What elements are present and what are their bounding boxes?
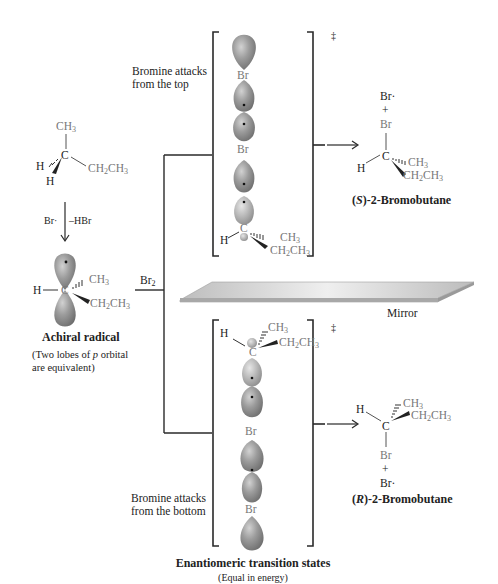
- s-product-c: C: [382, 150, 390, 163]
- radical-wedge: [72, 293, 90, 304]
- bottom-ts-c: C: [249, 346, 257, 359]
- top-ts-ch3: CH3: [280, 231, 300, 244]
- s-product-plus: +: [382, 104, 389, 117]
- mirror-plane: [180, 282, 474, 302]
- bottom-ts-orbitals: [240, 338, 263, 551]
- s-product-ch3: CH3: [408, 156, 428, 169]
- achiral-radical-title: Achiral radical: [42, 331, 120, 344]
- ts-title: Enantiomeric transition states: [163, 557, 343, 570]
- achiral-radical-note-line2: are equivalent): [32, 361, 95, 374]
- radical-ch3: CH3: [89, 273, 109, 286]
- achiral-radical-note-line1: (Two lobes of p orbital: [32, 348, 128, 361]
- attack-top-line2: from the top: [132, 78, 189, 91]
- s-product-br-radical: Br·: [380, 90, 395, 103]
- r-product-name: (R)-2-Bromobutane: [352, 493, 452, 506]
- top-ts-br1: Br: [237, 69, 249, 82]
- br2-reagent: Br2: [140, 274, 156, 287]
- top-ts-h: H: [220, 234, 228, 247]
- top-ts-c: C: [240, 222, 248, 235]
- butane-c: C: [61, 149, 69, 162]
- butane-ch3: CH3: [56, 120, 76, 133]
- radical-h: H: [33, 284, 41, 297]
- s-product-br: Br: [380, 118, 392, 131]
- down-arrow: [61, 202, 69, 241]
- s-product-ch2ch3: CH2CH3: [403, 169, 443, 182]
- butane-ch2ch3: CH2CH3: [88, 162, 128, 175]
- butane-h2: H: [46, 175, 54, 188]
- top-ts-brackets: [213, 32, 325, 256]
- reagent-br-radical: Br·: [44, 214, 57, 227]
- reagent-minus-hbr: –HBr: [69, 214, 91, 227]
- attack-bottom-line1: Bromine attacks: [131, 492, 206, 505]
- top-ts-double-dagger: ‡: [331, 29, 336, 42]
- bottom-ts-double-dagger: ‡: [331, 321, 336, 334]
- butane-bonds: [66, 134, 86, 166]
- attack-top-line1: Bromine attacks: [132, 65, 207, 78]
- radical-hash: [73, 280, 82, 289]
- bottom-ts-ch3: CH3: [268, 321, 288, 334]
- bottom-ts-br2: Br: [245, 503, 257, 516]
- bottom-ts-h: H: [220, 327, 228, 340]
- bottom-ts-br1: Br: [245, 425, 257, 438]
- top-ts-br2: Br: [237, 143, 249, 156]
- bottom-ts-brackets: [213, 320, 325, 546]
- radical-ch2ch3: CH2CH3: [90, 297, 130, 310]
- s-product-h: H: [357, 162, 365, 175]
- r-product-plus: +: [382, 463, 389, 476]
- radical-c: C: [61, 284, 69, 297]
- mirror-label: Mirror: [387, 307, 418, 320]
- r-product-br-radical: Br·: [380, 477, 395, 490]
- r-product-hash: [391, 405, 401, 417]
- s-product-name: (S)-2-Bromobutane: [352, 194, 451, 207]
- top-ts-wedge: [250, 236, 268, 249]
- r-product-br: Br: [380, 449, 392, 462]
- r-product-ch2ch3: CH2CH3: [411, 409, 451, 422]
- butane-h1: H: [36, 160, 44, 173]
- bottom-ts-ch2ch3: CH2CH3: [279, 336, 319, 349]
- arrow-to-s-product: [327, 141, 358, 149]
- top-ts-orbitals: [232, 35, 256, 241]
- r-product-wedge: [391, 411, 410, 421]
- r-product-h: H: [356, 403, 364, 416]
- attack-bottom-line2: from the bottom: [131, 505, 206, 518]
- r-product-c: C: [382, 420, 390, 433]
- arrow-to-r-product: [327, 420, 358, 428]
- top-ts-ch2ch3: CH2CH3: [270, 244, 310, 257]
- ts-note: (Equal in energy): [193, 571, 313, 584]
